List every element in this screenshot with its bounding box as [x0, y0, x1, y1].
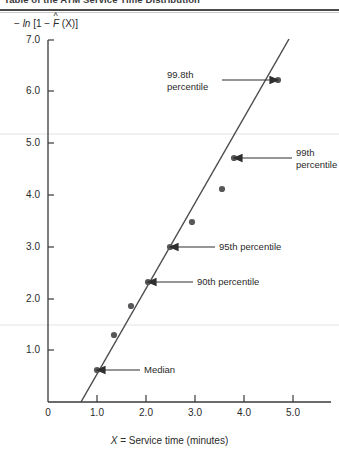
y-tick-label-6: 6.0: [14, 85, 40, 96]
x-tick-label-3: 3.0: [180, 407, 210, 418]
annotation-99th-percentile: 99th percentile: [296, 147, 337, 170]
table-caption-text: Table of the ATM Service Time Distributi…: [4, 0, 200, 5]
y-tick-label-5: 5.0: [14, 137, 40, 148]
annotation-99-8th-line2: percentile: [167, 81, 208, 93]
data-point: [128, 303, 134, 309]
data-point: [189, 219, 195, 225]
annotation-median-line1: Median: [144, 364, 175, 376]
annotation-99th-line2: percentile: [296, 159, 337, 171]
x-axis-label-text: = Service time (minutes): [120, 435, 228, 446]
annotation-99th-line1: 99th: [296, 147, 337, 159]
x-tick-label-1: 1.0: [82, 407, 112, 418]
data-point: [219, 186, 225, 192]
fitted-line: [81, 39, 289, 402]
annotation-99-8th-percentile: 99.8th percentile: [167, 69, 208, 92]
x-axis-label-variable: X: [111, 435, 118, 446]
annotation-90th-percentile: 90th percentile: [197, 276, 259, 288]
annotation-95th-line1: 95th percentile: [219, 241, 281, 253]
x-tick-label-4: 4.0: [229, 407, 259, 418]
data-point: [111, 332, 117, 338]
y-axis-ticks: [48, 40, 54, 350]
table-caption-strip: Table of the ATM Service Time Distributi…: [0, 0, 339, 9]
annotation-99-8th-line1: 99.8th: [167, 69, 208, 81]
annotation-arrows: [97, 77, 292, 374]
x-axis-ticks: [97, 395, 293, 402]
y-tick-label-1: 1.0: [14, 344, 40, 355]
annotation-95th-percentile: 95th percentile: [219, 241, 281, 253]
annotation-90th-line1: 90th percentile: [197, 276, 259, 288]
probability-plot-figure: − ln [1 − F (X)]: [0, 12, 339, 459]
y-tick-label-4: 4.0: [14, 189, 40, 200]
faint-gridlines: [0, 134, 339, 325]
y-tick-label-3: 3.0: [14, 241, 40, 252]
annotation-median: Median: [144, 364, 175, 376]
y-tick-label-2: 2.0: [14, 293, 40, 304]
x-tick-label-2: 2.0: [131, 407, 161, 418]
x-tick-label-5: 5.0: [278, 407, 308, 418]
y-tick-label-7: 7.0: [14, 34, 40, 45]
x-axis-label: X = Service time (minutes): [0, 435, 339, 446]
data-points: [94, 77, 281, 373]
origin-label: 0: [33, 407, 63, 418]
